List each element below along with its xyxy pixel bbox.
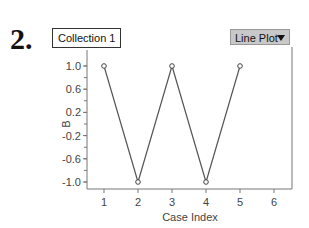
y-axis-label: B [60, 120, 72, 127]
x-axis-label: Case Index [162, 211, 218, 223]
y-tick-label: 1.0 [66, 60, 81, 72]
data-point[interactable] [204, 180, 209, 185]
data-point[interactable] [102, 64, 107, 69]
line-chart: 1.00.60.2-0.2-0.6-1.0 123456 Case Index … [0, 0, 309, 228]
y-tick-label: -0.6 [62, 153, 81, 165]
y-tick-label: 0.6 [66, 83, 81, 95]
chart-axes [87, 47, 292, 189]
x-tick-label: 1 [101, 196, 107, 208]
series-line [104, 66, 240, 182]
x-tick-label: 6 [271, 196, 277, 208]
x-tick-label: 3 [169, 196, 175, 208]
data-point[interactable] [238, 64, 243, 69]
y-tick-label: 0.2 [66, 106, 81, 118]
data-point[interactable] [136, 180, 141, 185]
data-series [102, 64, 243, 185]
y-tick-label: -0.2 [62, 130, 81, 142]
x-axis-ticks: 123456 [101, 189, 277, 208]
data-point[interactable] [170, 64, 175, 69]
y-tick-label: -1.0 [62, 176, 81, 188]
x-tick-label: 5 [237, 196, 243, 208]
x-tick-label: 2 [135, 196, 141, 208]
x-tick-label: 4 [203, 196, 209, 208]
